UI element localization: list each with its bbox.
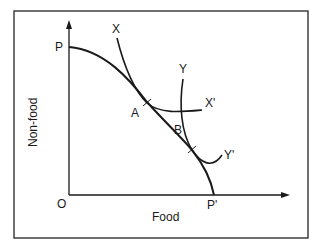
label-y-prime: Y': [224, 148, 234, 162]
label-y: Y: [179, 62, 187, 76]
label-p: P: [55, 40, 63, 54]
curve-x: [117, 38, 202, 112]
label-p-prime: P': [207, 198, 217, 212]
label-x: X: [112, 22, 120, 36]
x-axis-arrowhead-icon: [281, 192, 290, 198]
label-a: A: [131, 106, 139, 120]
label-x-prime: X': [205, 96, 215, 110]
label-origin: O: [57, 197, 66, 211]
curve-y: [181, 79, 222, 163]
label-b: B: [174, 123, 182, 137]
y-axis-label: Non-food: [26, 98, 40, 147]
ppf-diagram: P P' X X' Y Y' A B O Food Non-food: [0, 0, 322, 250]
x-axis-label: Food: [152, 210, 179, 224]
ppf-curve: [69, 47, 214, 195]
y-axis-arrowhead-icon: [66, 20, 72, 29]
